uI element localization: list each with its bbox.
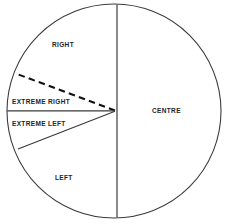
sector-label-right: RIGHT [52,42,74,49]
sector-label-extreme-left: EXTREME LEFT [12,121,66,128]
political-spectrum-diagram: RIGHT EXTREME RIGHT EXTREME LEFT LEFT CE… [0,0,230,224]
sector-label-centre: CENTRE [152,108,181,115]
sector-label-left: LEFT [55,175,73,182]
sector-label-extreme-right: EXTREME RIGHT [12,99,70,106]
diagram-canvas [0,0,230,224]
